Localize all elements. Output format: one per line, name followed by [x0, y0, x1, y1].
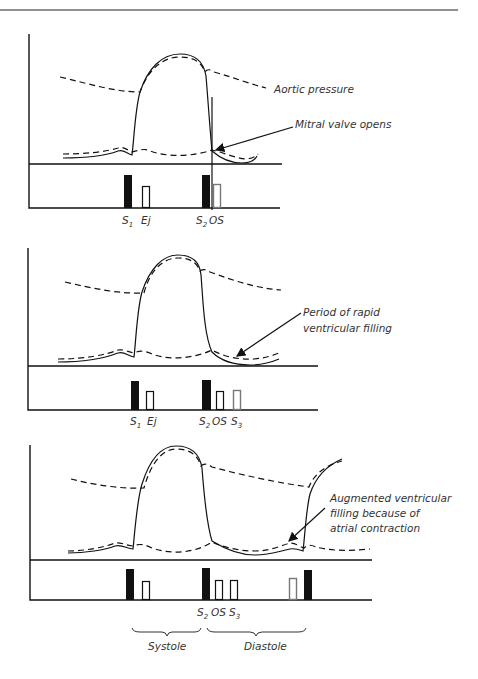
ej-label: Ej — [147, 415, 157, 427]
ejection-sound-bar — [143, 582, 150, 600]
s3-sound-bar — [231, 581, 238, 600]
s2-sound-bar — [202, 380, 211, 410]
aortic-pressure-label: Aortic pressure — [273, 83, 354, 95]
mitral-valve-arrow — [216, 127, 293, 150]
rapid-filling-label-line1: Period of rapid — [303, 306, 380, 318]
next-s1-sound-bar — [304, 570, 312, 600]
s2-sound-bar — [202, 175, 210, 208]
augmented-filling-label-line3: atrial contraction — [330, 522, 420, 534]
systole-label: Systole — [148, 640, 186, 652]
aortic-pressure-curve — [71, 449, 342, 488]
panel-3: Augmented ventricular filling because of… — [30, 445, 452, 652]
s4-atrial-sound-bar — [290, 579, 297, 600]
ejection-sound-bar — [143, 187, 150, 208]
ejection-sound-bar — [147, 392, 154, 410]
panel-2-axes — [28, 248, 318, 410]
aortic-pressure-curve — [60, 57, 266, 92]
panel-2: Period of rapid ventricular filling S1 E… — [28, 248, 392, 430]
atrial-pressure-curve — [63, 147, 258, 159]
s1-sound-bar — [124, 175, 132, 208]
os-label: OS — [211, 606, 226, 618]
s3-sound-bar — [234, 391, 241, 410]
opening-snap-bar — [216, 581, 223, 600]
rapid-filling-label-line2: ventricular filling — [303, 322, 392, 334]
s2-label: S2 — [196, 214, 208, 229]
s3-label: S3 — [231, 415, 242, 430]
s1-label: S1 — [122, 214, 133, 229]
systole-brace — [132, 628, 201, 636]
opening-snap-bar — [217, 392, 224, 410]
os-label: OS — [212, 415, 227, 427]
s2-label: S2 — [199, 415, 211, 430]
s2-label: S2 — [197, 606, 209, 621]
diastole-label: Diastole — [244, 640, 287, 652]
panel-1: Aortic pressure Mitral valve opens S1 Ej… — [29, 34, 392, 229]
panel-1-axes — [29, 34, 280, 208]
mitral-valve-opens-label: Mitral valve opens — [295, 118, 392, 130]
s3-label: S3 — [229, 606, 240, 621]
opening-snap-bar — [214, 185, 221, 208]
augmented-filling-label-line1: Augmented ventricular — [329, 492, 452, 504]
ventricular-pressure-curve — [68, 446, 342, 555]
ej-label: Ej — [141, 214, 151, 226]
ventricular-pressure-curve — [58, 255, 279, 365]
aortic-pressure-curve — [65, 258, 281, 293]
cardiac-cycle-diagram: Aortic pressure Mitral valve opens S1 Ej… — [0, 0, 478, 679]
rapid-filling-arrow — [237, 313, 301, 356]
s1-sound-bar — [131, 381, 139, 410]
diastole-brace — [207, 628, 306, 636]
s2-sound-bar — [202, 568, 210, 600]
augmented-filling-label-line2: filling because of — [330, 507, 422, 519]
s1-label: S1 — [130, 415, 141, 430]
atrial-pressure-curve — [58, 350, 279, 359]
os-label: OS — [209, 214, 224, 226]
panel-3-axes — [30, 445, 372, 600]
s1-sound-bar — [126, 569, 134, 600]
